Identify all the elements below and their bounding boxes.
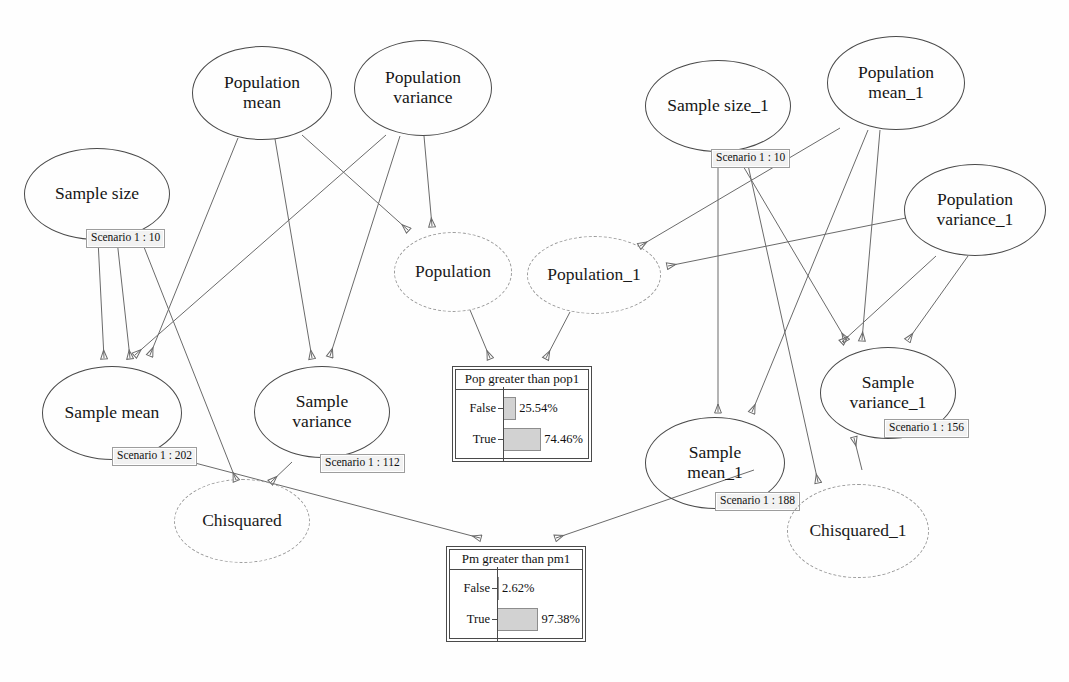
node-population_1[interactable]: Population_1 (527, 236, 661, 314)
node-chisquared_1[interactable]: Chisquared_1 (787, 484, 929, 578)
value-axis (503, 418, 504, 461)
node-label: Population (409, 262, 497, 282)
node-label: Populationvariance_1 (931, 190, 1020, 229)
bar-row: False25.54% (458, 393, 586, 424)
node-label: Chisquared_1 (803, 521, 912, 541)
bar (503, 397, 516, 419)
bar-value-label: 2.62% (499, 581, 534, 596)
bar-category-label: True (458, 432, 498, 447)
bar-category-label: True (452, 612, 492, 627)
bar (497, 608, 538, 630)
node-sample_size_1[interactable]: Sample size_1 (645, 60, 791, 152)
node-population[interactable]: Population (394, 232, 512, 312)
bar-value-label: 74.46% (541, 432, 583, 447)
node-chisquared[interactable]: Chisquared (174, 479, 310, 563)
diagram-canvas: Sample sizeScenario 1 : 10Populationmean… (0, 0, 1069, 682)
node-label: Populationmean (218, 73, 306, 112)
bar-row: False2.62% (452, 573, 580, 604)
node-population_mean_1[interactable]: Populationmean_1 (827, 36, 965, 130)
bar-value-label: 97.38% (538, 612, 580, 627)
monitor-pop_greater_than_pop1[interactable]: Pop greater than pop1False25.54%True74.4… (452, 366, 592, 462)
bar-category-label: False (452, 581, 492, 596)
bar-row: True74.46% (458, 424, 586, 455)
node-population_mean[interactable]: Populationmean (192, 46, 332, 140)
node-sample_variance[interactable]: Samplevariance (254, 366, 390, 458)
scenario-value-sample_mean_1: Scenario 1 : 188 (715, 492, 800, 511)
node-label: Populationvariance (379, 68, 467, 107)
node-population_variance_1[interactable]: Populationvariance_1 (904, 164, 1046, 256)
node-population_variance[interactable]: Populationvariance (354, 40, 492, 136)
monitor-title: Pop greater than pop1 (456, 370, 588, 390)
value-axis (497, 598, 498, 641)
scenario-value-sample_mean: Scenario 1 : 202 (112, 447, 197, 466)
bar-plot-area: 74.46% (503, 424, 586, 455)
node-label: Population_1 (541, 265, 646, 285)
bar (503, 428, 541, 450)
node-label: Populationmean_1 (852, 63, 940, 102)
node-sample_size[interactable]: Sample size (24, 148, 170, 240)
bar-row: True97.38% (452, 604, 580, 635)
bar-category-label: False (458, 401, 498, 416)
bar-value-label: 25.54% (516, 401, 558, 416)
scenario-value-sample_variance: Scenario 1 : 112 (320, 454, 405, 473)
monitor-frame: Pop greater than pop1False25.54%True74.4… (455, 369, 589, 459)
monitor-chart: False2.62%True97.38% (450, 570, 582, 638)
monitor-chart: False25.54%True74.46% (456, 390, 588, 458)
node-label: Sample size_1 (661, 96, 775, 116)
node-label: Samplevariance_1 (844, 373, 933, 412)
node-label: Samplevariance (286, 392, 357, 431)
bar-plot-area: 25.54% (503, 393, 586, 424)
node-label: Chisquared (196, 511, 288, 531)
scenario-value-sample_size_1: Scenario 1 : 10 (711, 149, 790, 168)
node-label: Samplemean_1 (681, 443, 748, 482)
scenario-value-sample_size: Scenario 1 : 10 (86, 229, 165, 248)
monitor-title: Pm greater than pm1 (450, 550, 582, 570)
node-label: Sample mean (59, 403, 166, 423)
node-sample_mean[interactable]: Sample mean (42, 366, 182, 460)
bar-plot-area: 2.62% (497, 573, 580, 604)
bar-plot-area: 97.38% (497, 604, 580, 635)
node-label: Sample size (49, 184, 145, 204)
monitor-frame: Pm greater than pm1False2.62%True97.38% (449, 549, 583, 639)
monitor-pm_greater_than_pm1[interactable]: Pm greater than pm1False2.62%True97.38% (446, 546, 586, 642)
scenario-value-sample_variance_1: Scenario 1 : 156 (884, 419, 969, 438)
